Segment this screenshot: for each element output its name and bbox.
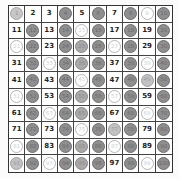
grid-cell[interactable]: 8	[123, 6, 139, 23]
grid-cell[interactable]: 77	[107, 122, 123, 139]
grid-cell[interactable]: 3	[42, 6, 58, 23]
grid-cell[interactable]: 95	[74, 155, 90, 172]
grid-cell[interactable]: 57	[107, 89, 123, 106]
grid-cell[interactable]: 31	[9, 56, 25, 73]
grid-cell[interactable]: 26	[90, 39, 106, 56]
grid-cell[interactable]: 93	[42, 155, 58, 172]
grid-cell[interactable]: 50	[156, 72, 172, 89]
grid-cell[interactable]: 87	[107, 139, 123, 156]
grid-cell[interactable]: 92	[25, 155, 41, 172]
grid-cell[interactable]: 30	[156, 39, 172, 56]
grid-cell[interactable]: 79	[139, 122, 155, 139]
grid-cell[interactable]: 72	[25, 122, 41, 139]
grid-cell[interactable]: 61	[9, 106, 25, 123]
grid-cell[interactable]: 19	[139, 23, 155, 40]
grid-cell[interactable]: 70	[156, 106, 172, 123]
grid-cell[interactable]: 100	[156, 155, 172, 172]
grid-cell[interactable]: 49	[139, 72, 155, 89]
grid-cell[interactable]: 20	[156, 23, 172, 40]
grid-cell[interactable]: 15	[74, 23, 90, 40]
grid-cell[interactable]: 63	[42, 106, 58, 123]
grid-cell[interactable]: 84	[58, 139, 74, 156]
grid-cell[interactable]: 91	[9, 155, 25, 172]
grid-cell[interactable]: 54	[58, 89, 74, 106]
grid-cell[interactable]: 80	[156, 122, 172, 139]
grid-cell[interactable]: 16	[90, 23, 106, 40]
grid-cell[interactable]: 38	[123, 56, 139, 73]
grid-cell[interactable]: 33	[42, 56, 58, 73]
grid-cell[interactable]: 34	[58, 56, 74, 73]
grid-cell[interactable]: 36	[90, 56, 106, 73]
grid-cell[interactable]: 37	[107, 56, 123, 73]
grid-cell[interactable]: 58	[123, 89, 139, 106]
grid-cell[interactable]: 48	[123, 72, 139, 89]
grid-cell[interactable]: 43	[42, 72, 58, 89]
grid-cell[interactable]: 53	[42, 89, 58, 106]
grid-cell[interactable]: 18	[123, 23, 139, 40]
grid-cell[interactable]: 52	[25, 89, 41, 106]
grid-cell[interactable]: 44	[58, 72, 74, 89]
grid-cell[interactable]: 12	[25, 23, 41, 40]
grid-cell[interactable]: 56	[90, 89, 106, 106]
grid-cell[interactable]: 47	[107, 72, 123, 89]
grid-cell[interactable]: 21	[9, 39, 25, 56]
grid-cell[interactable]: 73	[42, 122, 58, 139]
grid-cell[interactable]: 51	[9, 89, 25, 106]
grid-cell[interactable]: 59	[139, 89, 155, 106]
grid-cell[interactable]: 24	[58, 39, 74, 56]
grid-cell[interactable]: 55	[74, 89, 90, 106]
grid-cell[interactable]: 29	[139, 39, 155, 56]
grid-cell[interactable]: 28	[123, 39, 139, 56]
grid-cell[interactable]: 96	[90, 155, 106, 172]
grid-cell[interactable]: 90	[156, 139, 172, 156]
grid-cell[interactable]: 5	[74, 6, 90, 23]
grid-cell[interactable]: 41	[9, 72, 25, 89]
grid-cell[interactable]: 10	[156, 6, 172, 23]
grid-cell[interactable]: 81	[9, 139, 25, 156]
grid-cell[interactable]: 71	[9, 122, 25, 139]
grid-cell[interactable]: 42	[25, 72, 41, 89]
grid-cell[interactable]: 98	[123, 155, 139, 172]
grid-cell[interactable]: 94	[58, 155, 74, 172]
grid-cell[interactable]: 46	[90, 72, 106, 89]
grid-cell[interactable]: 66	[90, 106, 106, 123]
grid-cell[interactable]: 68	[123, 106, 139, 123]
grid-cell[interactable]: 35	[74, 56, 90, 73]
grid-cell[interactable]: 76	[90, 122, 106, 139]
grid-cell[interactable]: 2	[25, 6, 41, 23]
grid-cell[interactable]: 27	[107, 39, 123, 56]
grid-cell[interactable]: 4	[58, 6, 74, 23]
grid-cell[interactable]: 64	[58, 106, 74, 123]
grid-cell[interactable]: 82	[25, 139, 41, 156]
grid-cell[interactable]: 22	[25, 39, 41, 56]
grid-cell[interactable]: 13	[42, 23, 58, 40]
grid-cell[interactable]: 85	[74, 139, 90, 156]
grid-cell[interactable]: 25	[74, 39, 90, 56]
grid-cell[interactable]: 62	[25, 106, 41, 123]
grid-cell[interactable]: 11	[9, 23, 25, 40]
grid-cell[interactable]: 74	[58, 122, 74, 139]
grid-cell[interactable]: 89	[139, 139, 155, 156]
grid-cell[interactable]: 78	[123, 122, 139, 139]
grid-cell[interactable]: 67	[107, 106, 123, 123]
grid-cell[interactable]: 99	[139, 155, 155, 172]
grid-cell[interactable]: 83	[42, 139, 58, 156]
grid-cell[interactable]: 14	[58, 23, 74, 40]
grid-cell[interactable]: 9	[139, 6, 155, 23]
grid-cell[interactable]: 65	[74, 106, 90, 123]
grid-cell[interactable]: 23	[42, 39, 58, 56]
grid-cell[interactable]: 88	[123, 139, 139, 156]
grid-cell[interactable]: 6	[90, 6, 106, 23]
grid-cell[interactable]: 1	[9, 6, 25, 23]
grid-cell[interactable]: 69	[139, 106, 155, 123]
grid-cell[interactable]: 7	[107, 6, 123, 23]
grid-cell[interactable]: 60	[156, 89, 172, 106]
grid-cell[interactable]: 17	[107, 23, 123, 40]
grid-cell[interactable]: 39	[139, 56, 155, 73]
grid-cell[interactable]: 86	[90, 139, 106, 156]
grid-cell[interactable]: 97	[107, 155, 123, 172]
grid-cell[interactable]: 32	[25, 56, 41, 73]
grid-cell[interactable]: 40	[156, 56, 172, 73]
grid-cell[interactable]: 45	[74, 72, 90, 89]
grid-cell[interactable]: 75	[74, 122, 90, 139]
